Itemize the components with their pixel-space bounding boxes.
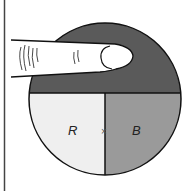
right-region-b [105,93,188,183]
color-wheel-diagram: R B × [0,0,188,191]
left-region-r [20,93,105,183]
region-label-r: R [68,123,77,138]
center-mark: × [101,126,107,137]
region-label-b: B [132,123,141,138]
